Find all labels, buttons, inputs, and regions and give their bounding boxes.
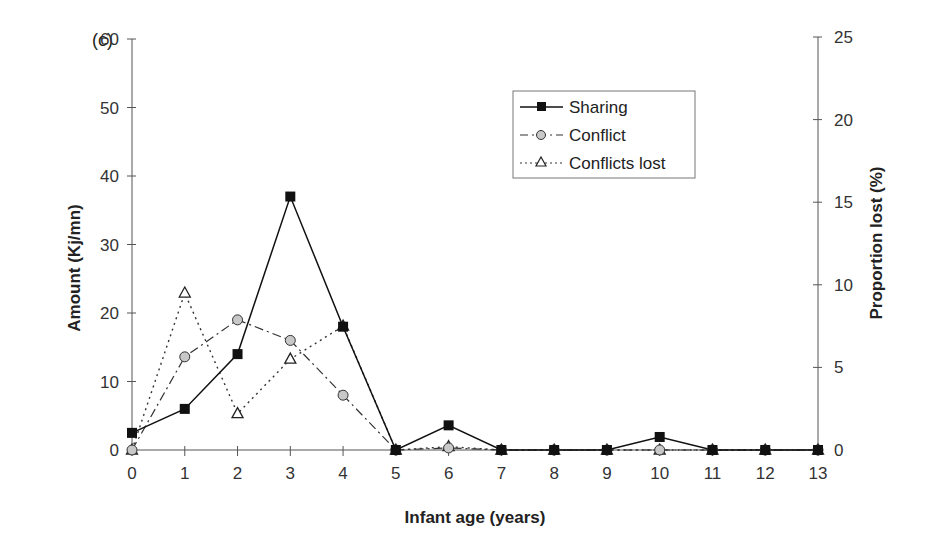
- left-axis-title: Amount (Kj/mn): [65, 204, 84, 331]
- y2-tick-label: 20: [834, 111, 853, 130]
- square-marker-icon: [496, 445, 506, 455]
- square-marker-icon: [537, 102, 546, 111]
- x-tick-label: 5: [391, 464, 400, 483]
- x-tick-label: 2: [233, 464, 242, 483]
- series-markers-conflicts-lost: [127, 287, 824, 454]
- y-tick-label: 60: [100, 30, 119, 49]
- square-marker-icon: [233, 349, 243, 359]
- circle-marker-icon: [233, 315, 243, 325]
- y-tick-label: 20: [100, 304, 119, 323]
- y2-tick-label: 5: [834, 358, 843, 377]
- x-tick-label: 4: [338, 464, 347, 483]
- circle-marker-icon: [338, 390, 348, 400]
- square-marker-icon: [338, 322, 348, 332]
- triangle-marker-icon: [179, 287, 190, 297]
- x-tick-label: 3: [286, 464, 295, 483]
- y-tick-label: 40: [100, 167, 119, 186]
- x-tick-label: 6: [444, 464, 453, 483]
- circle-marker-icon: [180, 352, 190, 362]
- y2-tick-label: 25: [834, 28, 853, 47]
- square-marker-icon: [655, 432, 665, 442]
- square-marker-icon: [285, 192, 295, 202]
- square-marker-icon: [444, 420, 454, 430]
- square-marker-icon: [391, 445, 401, 455]
- triangle-marker-icon: [285, 353, 296, 363]
- y2-tick-label: 15: [834, 193, 853, 212]
- circle-marker-icon: [127, 445, 137, 455]
- y-tick-label: 30: [100, 236, 119, 255]
- svg-text:Conflict: Conflict: [569, 126, 626, 145]
- x-tick-label: 7: [497, 464, 506, 483]
- x-tick-label: 13: [809, 464, 828, 483]
- y-tick-label: 0: [110, 441, 119, 460]
- left-y-axis: 0102030405060: [100, 30, 136, 460]
- right-axis-title: Proportion lost (%): [867, 167, 886, 320]
- y-tick-label: 50: [100, 99, 119, 118]
- series-markers-sharing: [127, 192, 823, 455]
- square-marker-icon: [813, 445, 823, 455]
- y2-tick-label: 10: [834, 276, 853, 295]
- x-tick-label: 8: [549, 464, 558, 483]
- chart-canvas: (c) 0102030405060 0510152025 01234567891…: [0, 0, 927, 560]
- svg-text:Sharing: Sharing: [569, 98, 628, 117]
- y-tick-label: 10: [100, 373, 119, 392]
- x-tick-label: 10: [650, 464, 669, 483]
- x-tick-label: 11: [704, 464, 722, 483]
- triangle-marker-icon: [232, 408, 243, 418]
- square-marker-icon: [549, 445, 559, 455]
- x-tick-label: 1: [180, 464, 189, 483]
- right-y-axis: 0510152025: [813, 28, 853, 460]
- circle-marker-icon: [285, 335, 295, 345]
- circle-marker-icon: [444, 443, 454, 453]
- plot-area: [127, 192, 824, 455]
- square-marker-icon: [180, 404, 190, 414]
- circle-marker-icon: [655, 445, 665, 455]
- legend: Sharing Conflict Conflicts lost: [513, 91, 695, 178]
- square-marker-icon: [602, 445, 612, 455]
- x-axis: 012345678910111213: [127, 446, 827, 483]
- square-marker-icon: [127, 428, 137, 438]
- circle-marker-icon: [537, 131, 546, 140]
- x-tick-label: 0: [127, 464, 136, 483]
- series-line-conflict: [132, 320, 818, 450]
- square-marker-icon: [707, 445, 717, 455]
- x-tick-label: 12: [756, 464, 775, 483]
- x-tick-label: 9: [602, 464, 611, 483]
- y2-tick-label: 0: [834, 441, 843, 460]
- svg-text:Conflicts lost: Conflicts lost: [569, 154, 666, 173]
- x-axis-title: Infant age (years): [405, 508, 546, 527]
- series-markers-conflict: [127, 315, 823, 455]
- square-marker-icon: [760, 445, 770, 455]
